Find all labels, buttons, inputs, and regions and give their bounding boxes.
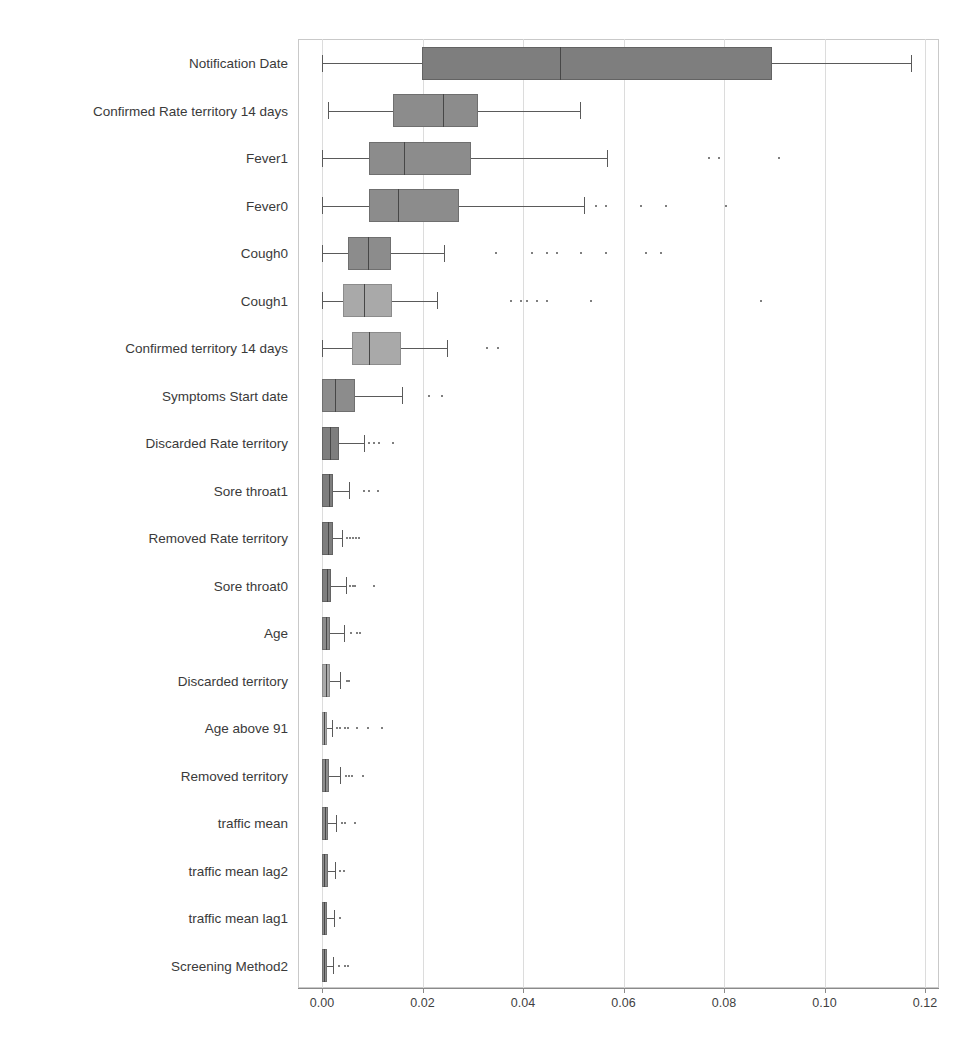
whisker-high-cap [584,197,585,214]
whisker-high-line [391,253,444,254]
whisker-high-cap [333,957,334,974]
median-line [335,379,336,412]
whisker-high-line [401,348,447,349]
whisker-high-line [333,538,342,539]
whisker-high-cap [340,672,341,689]
outlier-point [546,300,548,302]
outlier-point [345,775,347,777]
whisker-high-line [339,443,364,444]
whisker-high-cap [402,387,403,404]
outlier-point [778,157,780,159]
whisker-high-cap [580,102,581,119]
outlier-point [339,870,341,872]
whisker-high-line [327,918,334,919]
x-axis-line [298,988,939,989]
x-tick-label: 0.02 [410,996,434,1010]
outlier-point [497,347,499,349]
outlier-point [441,395,443,397]
whisker-high-line [330,681,340,682]
median-line [324,854,325,887]
whisker-high-line [329,776,340,777]
category-label: Confirmed territory 14 days [125,341,288,356]
category-label: Notification Date [189,56,288,71]
outlier-point [556,252,558,254]
category-label: Fever1 [246,151,288,166]
category-label: Discarded Rate territory [145,436,288,451]
outlier-point [486,347,488,349]
whisker-high-cap [344,625,345,642]
outlier-point [526,300,528,302]
x-tick-label: 0.10 [812,996,836,1010]
median-line [368,237,369,270]
whisker-high-cap [911,55,912,72]
category-label: Cough0 [241,246,288,261]
outlier-point [605,252,607,254]
box [348,237,391,270]
whisker-high-cap [342,530,343,547]
median-line [325,759,326,792]
outlier-point [348,775,350,777]
whisker-low-line [322,348,352,349]
gridline [523,39,524,988]
median-line [324,949,325,982]
outlier-point [392,442,394,444]
median-line [326,664,327,697]
category-label: Fever0 [246,198,288,213]
outlier-point [640,205,642,207]
whisker-high-line [772,63,911,64]
whisker-high-line [328,871,335,872]
median-line [328,522,329,555]
median-line [329,474,330,507]
whisker-high-line [355,396,402,397]
box [343,284,392,317]
whisker-high-cap [336,815,337,832]
whisker-high-cap [437,292,438,309]
category-label: Discarded territory [178,673,288,688]
whisker-low-line [322,158,369,159]
median-line [324,902,325,935]
whisker-high-cap [335,862,336,879]
median-line [327,569,328,602]
whisker-high-line [331,586,346,587]
whisker-low-line [322,206,369,207]
whisker-high-cap [349,482,350,499]
median-line [326,617,327,650]
category-label: traffic mean [218,816,288,831]
box [322,474,333,507]
whisker-low-cap [322,55,323,72]
plot-area [298,39,939,988]
outlier-point [665,205,667,207]
median-line [324,712,325,745]
whisker-high-cap [607,150,608,167]
outlier-point [495,252,497,254]
whisker-low-cap [322,245,323,262]
category-label: Age [264,626,288,641]
whisker-low-line [322,301,343,302]
x-tick [423,988,424,993]
median-line [364,284,365,317]
median-line [325,807,326,840]
whisker-high-cap [332,720,333,737]
outlier-point [531,252,533,254]
median-line [404,142,405,175]
whisker-high-cap [444,245,445,262]
whisker-high-cap [364,435,365,452]
outlier-point [377,490,379,492]
outlier-point [349,585,351,587]
median-line [369,332,370,365]
category-label: Confirmed Rate territory 14 days [93,103,288,118]
category-label: Removed Rate territory [148,531,288,546]
x-tick [523,988,524,993]
category-label: Cough1 [241,293,288,308]
median-line [443,94,444,127]
outlier-point [368,490,370,492]
whisker-high-line [333,491,349,492]
x-tick-label: 0.12 [913,996,937,1010]
category-label: Sore throat1 [214,483,288,498]
box [352,332,401,365]
whisker-low-cap [322,150,323,167]
median-line [398,189,399,222]
x-tick-label: 0.06 [611,996,635,1010]
x-tick [825,988,826,993]
outlier-point [428,395,430,397]
